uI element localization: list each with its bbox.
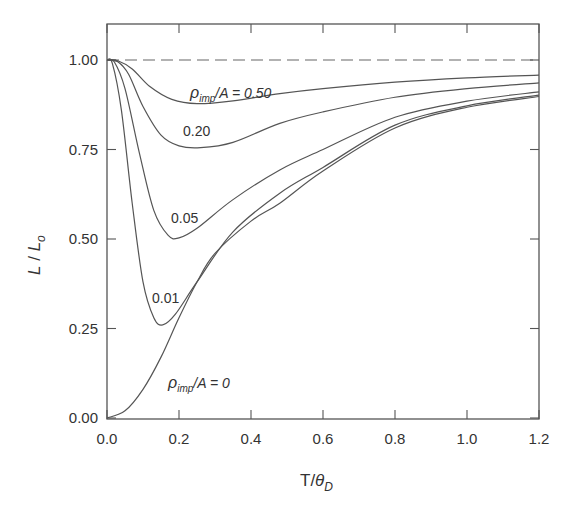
curves <box>107 59 539 418</box>
tick-labels: 0.00.20.40.60.81.01.20.000.250.500.751.0… <box>69 51 550 447</box>
curve-series-4 <box>107 97 539 418</box>
x-tick-label: 0.8 <box>385 430 406 447</box>
curve-label-zero: ρimp/A = 0 <box>167 374 230 394</box>
y-tick-label: 0.50 <box>69 230 98 247</box>
chart-canvas: 0.00.20.40.60.81.01.20.000.250.500.751.0… <box>0 0 565 508</box>
x-axis-label: T/θD <box>300 471 333 494</box>
y-tick-label: 0.25 <box>69 320 98 337</box>
y-axis-label: L / Lo <box>25 235 48 275</box>
x-tick-label: 1.0 <box>457 430 478 447</box>
curve-series-0 <box>107 60 539 104</box>
x-tick-label: 0.6 <box>313 430 334 447</box>
x-tick-label: 0.2 <box>169 430 190 447</box>
x-tick-label: 0.0 <box>97 430 118 447</box>
y-tick-label: 1.00 <box>69 51 98 68</box>
x-tick-label: 1.2 <box>529 430 550 447</box>
y-tick-label: 0.00 <box>69 409 98 426</box>
x-tick-label: 0.4 <box>241 430 262 447</box>
curve-label-005: 0.05 <box>171 210 198 226</box>
curve-label-020: 0.20 <box>183 123 210 139</box>
y-tick-label: 0.75 <box>69 141 98 158</box>
curve-label-001: 0.01 <box>152 290 179 306</box>
